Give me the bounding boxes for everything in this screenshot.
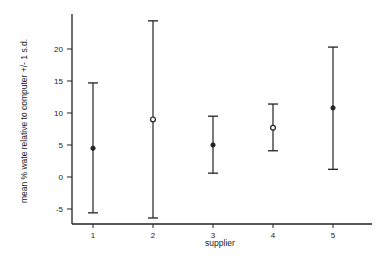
mean-marker [331,106,335,110]
error-bar-supplier-2 [148,21,158,218]
x-tick-label: 5 [331,231,336,240]
mean-marker [91,146,95,150]
error-bar-supplier-4 [268,104,278,151]
y-tick-label: 0 [59,173,64,182]
y-tick-label: 5 [59,141,64,150]
y-tick-label: -5 [56,205,64,214]
y-axis: -505101520 [54,14,72,224]
mean-marker [211,143,215,147]
y-axis-title: mean % wate relative to computer +/- 1 s… [19,39,29,203]
x-tick-label: 1 [91,231,96,240]
x-tick-label: 2 [151,231,156,240]
y-tick-label: 20 [54,45,63,54]
mean-marker [151,117,156,122]
mean-marker [271,125,276,130]
error-bar-supplier-5 [328,47,338,169]
data-series [88,21,338,218]
error-bar-supplier-3 [208,116,218,173]
y-tick-label: 15 [54,77,63,86]
error-bar-supplier-1 [88,83,98,213]
x-tick-label: 4 [271,231,276,240]
y-tick-label: 10 [54,109,63,118]
x-axis-title: supplier [205,238,235,248]
errorbar-chart: -505101520 12345 mean % wate relative to… [0,0,389,259]
